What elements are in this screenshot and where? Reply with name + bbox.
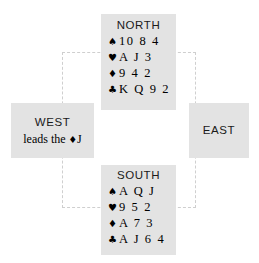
south-spade-row: ♠ A Q J [101, 185, 176, 201]
south-suit-list: ♠ A Q J ♥ 9 5 2 ♦ A 7 3 ♣ A J 6 4 [101, 185, 176, 249]
south-club-cards: A J 6 4 [119, 233, 165, 246]
west-lead-rank: J [77, 132, 82, 146]
north-spade-cards: 10 8 4 [119, 35, 160, 48]
south-heart-row: ♥ 9 5 2 [101, 201, 176, 217]
east-seat-label: EAST [203, 124, 235, 137]
heart-icon: ♥ [108, 203, 118, 213]
diamond-icon: ♦ [108, 219, 118, 229]
spade-icon: ♠ [108, 187, 118, 197]
south-diamond-cards: A 7 3 [119, 217, 154, 230]
diamond-icon: ♦ [69, 134, 78, 145]
north-hand-panel: NORTH ♠ 10 8 4 ♥ A J 3 ♦ 9 4 2 ♣ K Q 9 2 [101, 14, 176, 110]
south-seat-label: SOUTH [101, 169, 176, 182]
north-club-cards: K Q 9 2 [119, 83, 170, 96]
south-hand-panel: SOUTH ♠ A Q J ♥ 9 5 2 ♦ A 7 3 ♣ A J 6 4 [101, 165, 176, 255]
north-club-row: ♣ K Q 9 2 [101, 83, 176, 99]
north-diamond-cards: 9 4 2 [119, 67, 152, 80]
heart-icon: ♥ [108, 53, 118, 63]
west-opening-lead: leads the ♦J [11, 133, 94, 146]
west-seat-label: WEST [11, 116, 94, 129]
south-spade-cards: A Q J [119, 185, 155, 198]
south-heart-cards: 9 5 2 [119, 201, 152, 214]
spade-icon: ♠ [108, 37, 118, 47]
north-diamond-row: ♦ 9 4 2 [101, 67, 176, 83]
north-seat-label: NORTH [101, 19, 176, 32]
north-heart-cards: A J 3 [119, 51, 153, 64]
west-seat-panel: WEST leads the ♦J [11, 103, 94, 158]
north-heart-row: ♥ A J 3 [101, 51, 176, 67]
bridge-hand-diagram: NORTH ♠ 10 8 4 ♥ A J 3 ♦ 9 4 2 ♣ K Q 9 2… [0, 0, 259, 263]
south-diamond-row: ♦ A 7 3 [101, 217, 176, 233]
north-suit-list: ♠ 10 8 4 ♥ A J 3 ♦ 9 4 2 ♣ K Q 9 2 [101, 35, 176, 99]
diamond-icon: ♦ [108, 69, 118, 79]
club-icon: ♣ [108, 85, 118, 95]
south-club-row: ♣ A J 6 4 [101, 233, 176, 249]
north-spade-row: ♠ 10 8 4 [101, 35, 176, 51]
east-seat-panel: EAST [189, 103, 249, 158]
west-lead-prefix: leads the [23, 132, 68, 146]
club-icon: ♣ [108, 235, 118, 245]
